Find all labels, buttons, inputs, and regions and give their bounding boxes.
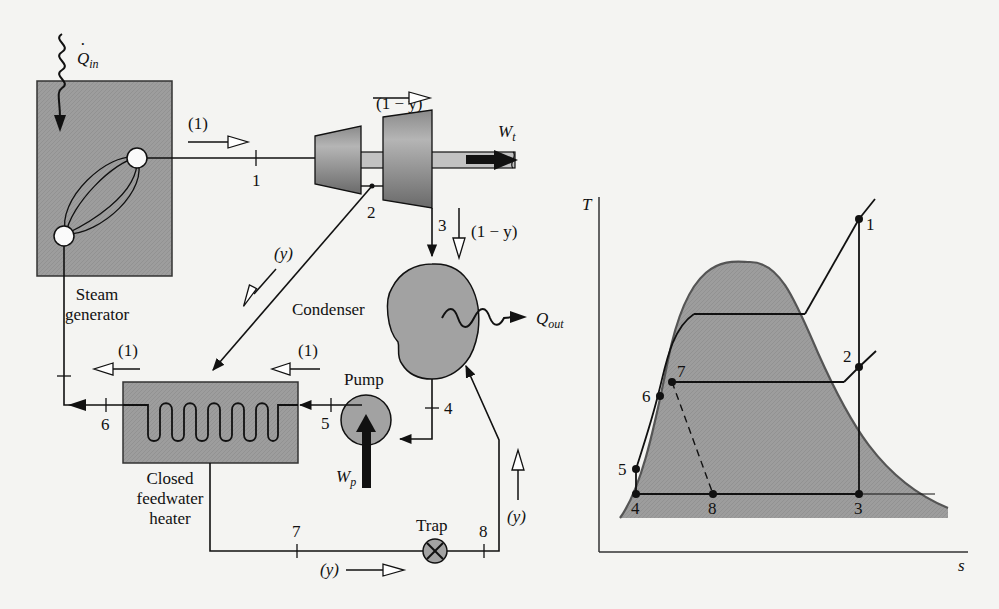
steam-generator [37,81,172,276]
flow-arrow-hollow-icon [512,450,524,500]
condenser [387,264,478,379]
state-2-label: 2 [367,203,376,222]
heater-label-3: heater [149,509,191,528]
flow-arrow-hollow-icon [453,208,465,258]
feedwater-heater [123,382,298,463]
ts-point-7: 7 [677,362,686,381]
state-1-label: 1 [252,171,261,190]
heater-label-2: feedwater [136,489,203,508]
flow-return-label: (y) [507,507,526,526]
ts-point-6: 6 [642,387,651,406]
x-axis-label: s [958,556,965,575]
pump-label: Pump [344,370,384,389]
ts-point-2: 2 [843,347,852,366]
state-8-label: 8 [479,522,488,541]
flow-1-top-label: (1) [188,114,208,133]
ts-point-4: 4 [631,499,640,518]
ts-point-1: 1 [866,215,875,234]
ts-point-5: 5 [618,460,627,479]
arrowhead-icon [68,399,86,411]
flow-bottom-label: (y) [320,560,339,579]
flow-extract-label: (y) [274,244,293,263]
ts-point-8: 8 [708,499,717,518]
ts-point-3: 3 [854,499,863,518]
trap-label: Trap [416,516,448,535]
steam-generator-label-1: Steam [76,285,119,304]
state-5-label: 5 [321,414,330,433]
flow-arrow-hollow-icon [242,269,276,306]
y-axis-label: T [582,195,593,214]
q-in-dot: · [80,35,86,54]
flow-arrow-hollow-icon [94,363,140,375]
trap-valve-icon [423,539,447,563]
state-7-label: 7 [292,522,301,541]
flow-left-label: (1) [118,341,138,360]
q-out-label: Qout [536,309,564,331]
cycle-diagram: Steam generator Qin · 1 (1) (1 − y) Wt 2… [0,0,999,609]
state-3-label: 3 [438,216,447,235]
saturation-dome [620,262,948,518]
steam-generator-label-2: generator [65,305,130,324]
heater-label-1: Closed [146,469,194,488]
flow-arrow-hollow-icon [188,136,248,148]
w-p-label: Wp [336,467,356,489]
header-bottom-node [54,226,74,246]
header-top-node [127,148,147,168]
flow-arrow-hollow-icon [272,363,320,375]
w-t-label: Wt [498,122,516,144]
condenser-label: Condenser [292,300,365,319]
ts-diagram: T s 1 2 3 [582,195,968,575]
heat-out-arrowhead-icon [510,311,527,323]
flow-arrow-hollow-icon [346,564,404,576]
flow-condenser-label: (1 − y) [471,222,517,241]
state-4-label: 4 [444,399,453,418]
state-6-label: 6 [101,415,110,434]
flow-right-label: (1) [298,341,318,360]
